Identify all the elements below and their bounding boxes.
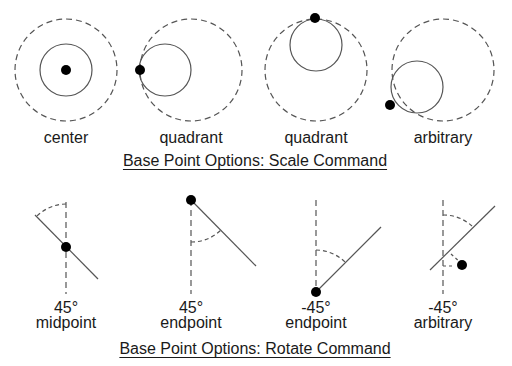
scale-quadrant-top-figure [265,19,367,121]
rotate-label-3: endpoint [285,315,346,331]
rotate-endpoint-neg45-figure [316,200,381,292]
rotate-label-4: arbitrary [414,315,473,331]
base-point-rotate-midpoint [61,242,71,252]
base-point-quadrant-top [310,13,320,23]
rotate-caption: Base Point Options: Rotate Command [119,340,390,358]
scale-label-quadrant-top: quadrant [284,130,347,146]
base-point-rotate-arbitrary [457,260,467,270]
scale-quadrant-left-figure [139,19,242,121]
rotate-label-2: endpoint [160,315,221,331]
base-point-quadrant-left [135,65,145,75]
base-point-rotate-endpoint [186,195,196,205]
base-point-rotate-endpoint-neg [311,287,321,297]
scale-label-quadrant-left: quadrant [159,130,222,146]
scale-arbitrary-figure [391,19,494,121]
rotate-arbitrary-figure [430,200,495,294]
rotate-endpoint-45-figure [191,200,256,294]
rotate-label-1: midpoint [36,315,96,331]
scale-caption: Base Point Options: Scale Command [123,152,387,170]
base-point-arbitrary [385,100,395,110]
scale-label-arbitrary: arbitrary [414,130,473,146]
base-point-center [61,65,71,75]
scale-label-center: center [44,130,88,146]
